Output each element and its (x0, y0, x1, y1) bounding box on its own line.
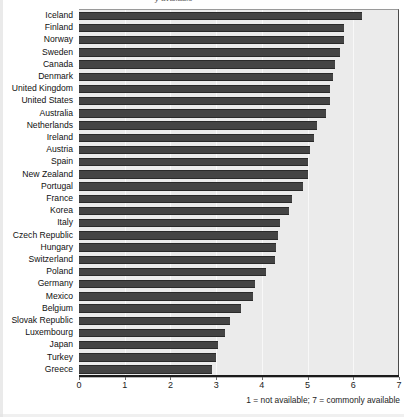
category-label: United Kingdom (12, 82, 73, 94)
bar-row (79, 156, 398, 168)
bar (79, 60, 335, 68)
category-label: Luxembourg (25, 326, 73, 338)
category-label: United States (21, 94, 73, 106)
category-label: Slovak Republic (11, 314, 73, 326)
bar-row (79, 59, 398, 71)
bar-row (79, 144, 398, 156)
category-label: Iceland (45, 9, 73, 21)
category-label: Switzerland (29, 253, 73, 265)
bar-row (79, 47, 398, 59)
tick-label-2: 2 (160, 380, 180, 390)
bar (79, 12, 362, 20)
tick-label-0: 0 (69, 380, 89, 390)
bar (79, 219, 280, 227)
category-label: Turkey (47, 351, 73, 363)
bar-row (79, 205, 398, 217)
bar-row (79, 254, 398, 266)
bar-row (79, 217, 398, 229)
bar (79, 280, 255, 288)
bar (79, 24, 344, 32)
category-label: Finland (45, 21, 73, 33)
bar (79, 73, 333, 81)
category-label: Japan (50, 338, 73, 350)
bar (79, 85, 330, 93)
category-label: Mexico (46, 290, 73, 302)
chart-title-strip: y available (0, 0, 404, 7)
bar (79, 146, 310, 154)
category-label: Spain (51, 155, 73, 167)
bar (79, 182, 303, 190)
bar (79, 207, 289, 215)
bar (79, 256, 275, 264)
category-label: Portugal (41, 180, 73, 192)
bar-row (79, 34, 398, 46)
category-label: Austria (46, 143, 73, 155)
axis-shadow (80, 377, 400, 378)
bar (79, 48, 340, 56)
bar-row (79, 291, 398, 303)
category-label: Germany (38, 277, 73, 289)
bar-row (79, 169, 398, 181)
tick-label-4: 4 (252, 380, 272, 390)
bar-row (79, 95, 398, 107)
category-label: France (46, 192, 73, 204)
bar-row (79, 22, 398, 34)
bar-row (79, 242, 398, 254)
page-title: y available (155, 0, 193, 3)
bar-row (79, 120, 398, 132)
tick-label-1: 1 (115, 380, 135, 390)
category-label: Canada (43, 58, 73, 70)
axis-note: 1 = not available; 7 = commonly availabl… (246, 395, 400, 405)
bar (79, 268, 266, 276)
tick-label-3: 3 (206, 380, 226, 390)
bar (79, 97, 330, 105)
bar (79, 134, 314, 142)
category-label: Sweden (42, 46, 73, 58)
bar (79, 365, 212, 373)
bar-row (79, 108, 398, 120)
bar-row (79, 303, 398, 315)
bar (79, 170, 308, 178)
category-label: Poland (46, 265, 73, 277)
bar-row (79, 83, 398, 95)
bar-row (79, 71, 398, 83)
category-label: Czech Republic (13, 229, 73, 241)
chart-figure: y available IcelandFinlandNorwaySwedenCa… (0, 0, 404, 417)
category-label: Ireland (47, 131, 73, 143)
bar-row (79, 315, 398, 327)
bar-row (79, 266, 398, 278)
bar-row (79, 181, 398, 193)
category-label: Italy (57, 216, 73, 228)
category-axis: IcelandFinlandNorwaySwedenCanadaDenmarkU… (0, 9, 76, 375)
bar-row (79, 193, 398, 205)
category-label: New Zealand (22, 168, 73, 180)
category-label: Belgium (42, 302, 73, 314)
category-label: Greece (45, 363, 73, 375)
bar (79, 329, 225, 337)
category-label: Norway (44, 33, 73, 45)
tick-label-7: 7 (389, 380, 404, 390)
tick-label-6: 6 (343, 380, 363, 390)
category-label: Australia (40, 107, 73, 119)
bar (79, 231, 278, 239)
bar (79, 304, 241, 312)
bar-row (79, 327, 398, 339)
bar (79, 36, 344, 44)
bar-row (79, 230, 398, 242)
bar (79, 109, 326, 117)
category-label: Hungary (41, 241, 73, 253)
bar (79, 195, 292, 203)
bar (79, 317, 230, 325)
bar-row (79, 10, 398, 22)
bar-row (79, 278, 398, 290)
category-label: Netherlands (27, 119, 73, 131)
bar-row (79, 339, 398, 351)
bar (79, 243, 276, 251)
bar (79, 341, 218, 349)
plot-area (79, 9, 399, 375)
bar (79, 121, 317, 129)
category-label: Korea (50, 204, 73, 216)
tick-label-5: 5 (298, 380, 318, 390)
bar (79, 353, 216, 361)
category-label: Denmark (38, 70, 73, 82)
